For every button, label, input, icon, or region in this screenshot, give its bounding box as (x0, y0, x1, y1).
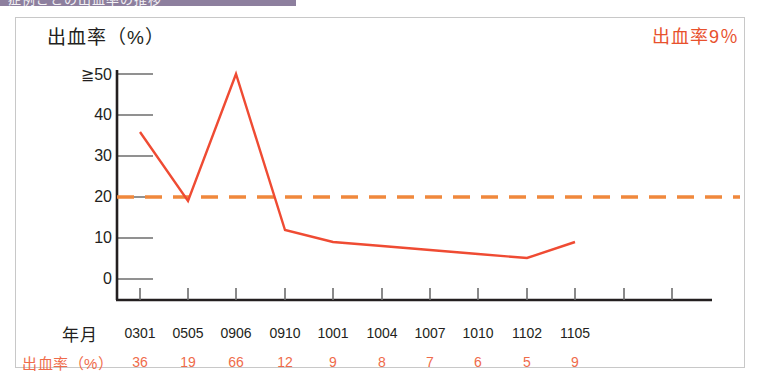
section-banner: 症例ごとの出血率の推移 (0, 0, 296, 6)
value-label: 7 (426, 354, 434, 370)
value-label: 9 (329, 354, 337, 370)
x-axis-date-label: 0910 (269, 325, 300, 341)
x-axis-row-label: 年月 (62, 321, 98, 346)
x-axis-date-label: 1010 (462, 325, 493, 341)
value-label: 66 (228, 354, 244, 370)
y-axis-tick-label: 40 (66, 106, 112, 124)
value-label: 8 (378, 354, 386, 370)
x-axis-date-row: 年月03010505090609101001100410071010110211… (0, 322, 761, 344)
y-axis-tick-label: 10 (66, 229, 112, 247)
value-label: 19 (180, 354, 196, 370)
value-label: 6 (474, 354, 482, 370)
x-axis-date-label: 0301 (124, 325, 155, 341)
x-axis-date-label: 0505 (172, 325, 203, 341)
value-row-label: 出血率（%） (22, 352, 113, 373)
chart-container (15, 17, 745, 368)
x-axis-value-row: 出血率（%）36196612987659 (0, 351, 761, 373)
value-label: 36 (132, 354, 148, 370)
x-axis-date-label: 0906 (220, 325, 251, 341)
x-axis-date-label: 1102 (512, 325, 542, 341)
x-axis-date-label: 1004 (366, 325, 397, 341)
value-label: 12 (277, 354, 293, 370)
x-axis-date-label: 1007 (414, 325, 445, 341)
screenshot-root: 症例ごとの出血率の推移 出血率（%） 出血率9％ ≧50403020100 (0, 0, 761, 379)
value-label: 9 (571, 354, 579, 370)
x-axis-date-label: 1001 (317, 325, 348, 341)
y-axis-tick-label: 20 (66, 188, 112, 206)
chart-annotation: 出血率9％ (652, 22, 739, 48)
y-axis-tick-label: 30 (66, 147, 112, 165)
y-axis-tick-label: ≧50 (66, 65, 112, 84)
x-axis-date-label: 1105 (560, 325, 590, 341)
value-label: 5 (523, 354, 531, 370)
y-axis-tick-label: 0 (66, 270, 112, 288)
